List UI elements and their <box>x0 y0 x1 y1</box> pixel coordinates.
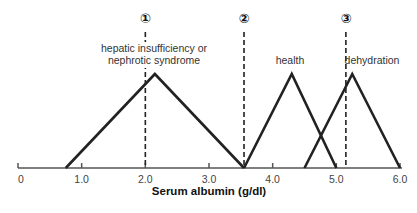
x-tick-label: 5.0 <box>329 173 344 185</box>
threshold-marker-2: ② <box>239 11 250 26</box>
series-1-triangle <box>66 74 244 168</box>
x-axis-title: Serum albumin (g/dl) <box>152 185 267 197</box>
x-tick-label: 0 <box>18 173 24 185</box>
x-tick-label: 4.0 <box>265 173 280 185</box>
series-label: nephrotic syndrome <box>108 54 200 66</box>
threshold-marker-1: ① <box>140 11 151 26</box>
x-tick-label: 2.0 <box>138 173 153 185</box>
series-3-triangle <box>305 74 401 168</box>
x-tick-label: 6.0 <box>393 173 408 185</box>
threshold-marker-3: ③ <box>340 11 351 26</box>
x-tick-label: 1.0 <box>74 173 89 185</box>
series-label: hepatic insufficiency or <box>101 42 208 54</box>
x-tick-label: 3.0 <box>202 173 217 185</box>
series-label: dehydration <box>345 54 400 66</box>
series-2-triangle <box>244 74 336 168</box>
series-label: health <box>276 54 305 66</box>
albumin-diagram: 01.02.03.04.05.06.0Serum albumin (g/dl)①… <box>0 0 417 213</box>
